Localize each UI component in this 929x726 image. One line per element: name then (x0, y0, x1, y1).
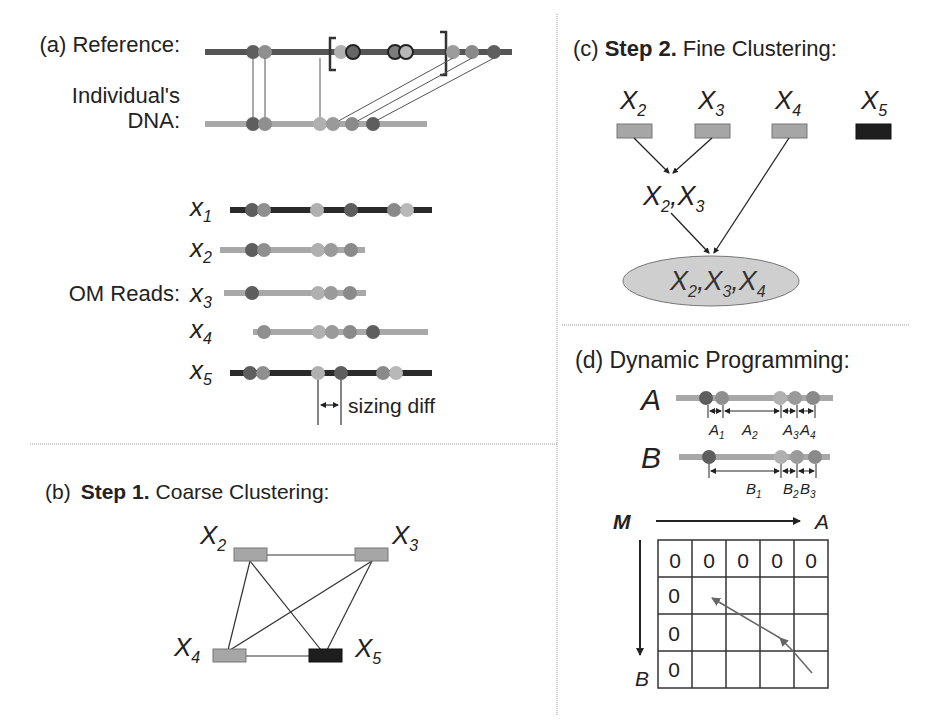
seq-a-label: A (639, 383, 661, 416)
matrix-cell: 0 (771, 549, 783, 572)
node-x2-label: X2 (199, 520, 226, 554)
read-x4: x4 (188, 314, 428, 347)
matrix-cell: 0 (805, 549, 817, 572)
deleted-site-dot (399, 45, 413, 59)
node-x5-label: X5 (354, 633, 381, 667)
read-x1: x1 (188, 192, 432, 225)
interval-b3: B3 (800, 480, 816, 500)
interval-a2: A2 (741, 421, 758, 441)
interval-b2: B2 (783, 480, 799, 500)
read-x3: x3 (188, 278, 366, 311)
seq-a-map (676, 391, 833, 405)
individual-dna-map (205, 117, 427, 131)
panel-d-title: (d) Dynamic Programming: (575, 347, 850, 373)
individual-dna-label-line1: Individual's (72, 83, 180, 108)
seq-a-intervals (708, 405, 815, 418)
figure-canvas: (a) Reference: Individual's DNA: (0, 0, 929, 726)
om-reads-label: OM Reads: (69, 281, 180, 306)
fine-node-x2 (617, 124, 652, 138)
final-cluster-label: X2,X3,X4 (669, 266, 766, 300)
fine-node-x4-label: X4 (774, 85, 801, 119)
seq-b-label: B (641, 441, 661, 474)
seq-b-map (679, 450, 830, 464)
reference-map (205, 32, 512, 75)
svg-text:x5: x5 (188, 355, 212, 388)
individual-dna-label-line2: DNA: (127, 108, 180, 133)
sizing-diff-label: sizing diff (348, 394, 435, 417)
dp-matrix: 0 0 0 0 0 0 0 0 (658, 540, 828, 688)
panel-c-title: (c)Step 2.Fine Clustering: (573, 36, 837, 61)
matrix-cell: 0 (668, 658, 680, 681)
alignment-connectors (253, 58, 494, 124)
fine-node-x4 (772, 124, 807, 138)
panel-b-title: (b)Step 1.Coarse Clustering: (45, 480, 329, 503)
fine-node-x3 (695, 124, 730, 138)
matrix-cell: 0 (703, 549, 715, 572)
panel-c-fine-clustering: (c)Step 2.Fine Clustering: X2 X3 X4 X5 X… (573, 36, 891, 306)
axis-b-label: B (635, 667, 649, 690)
node-x3 (355, 548, 388, 561)
merged-x2-x3-label-full: X2,X3 (642, 181, 704, 215)
node-x2 (234, 548, 267, 561)
deleted-site-dot (346, 45, 360, 59)
read-x2: x2 (188, 233, 365, 266)
sizing-diff-annotation: sizing diff (318, 380, 435, 425)
node-x4-label: X4 (173, 632, 200, 666)
interval-a4: A4 (799, 421, 816, 441)
svg-text:x1: x1 (188, 192, 212, 225)
fine-node-x2-label: X2 (619, 85, 646, 119)
fine-node-x3-label: X3 (697, 85, 724, 119)
svg-text:x3: x3 (188, 278, 212, 311)
matrix-label: M (613, 510, 631, 533)
node-x3-label: X3 (391, 520, 418, 554)
fine-node-x5-label: X5 (860, 85, 887, 119)
svg-text:x2: x2 (188, 233, 212, 266)
matrix-cell: 0 (669, 549, 681, 572)
panel-a-title: (a) Reference: (39, 32, 180, 57)
axis-a-label: A (813, 510, 829, 533)
svg-text:x4: x4 (188, 314, 212, 347)
interval-a3: A3 (782, 421, 799, 441)
graph-edges (228, 555, 372, 656)
interval-a1: A1 (708, 421, 725, 441)
read-x5: x5 (188, 355, 432, 388)
panel-d-dynamic-programming: (d) Dynamic Programming: A A1 A2 A3 A4 (575, 347, 850, 690)
matrix-cell: 0 (668, 584, 680, 607)
node-x4 (213, 649, 246, 662)
panel-b-coarse-clustering: (b)Step 1.Coarse Clustering: X2 X3 X4 X5 (45, 480, 418, 667)
matrix-cell: 0 (737, 549, 749, 572)
matrix-cell: 0 (668, 622, 680, 645)
interval-b1: B1 (746, 480, 762, 500)
panel-a-alignment: (a) Reference: Individual's DNA: (39, 32, 512, 425)
fine-node-x5 (856, 124, 891, 139)
node-x5 (309, 649, 342, 662)
seq-b-intervals (709, 464, 816, 478)
